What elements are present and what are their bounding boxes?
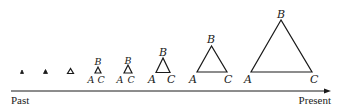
vertex-label-c: C (98, 74, 106, 85)
triangle-shape (156, 58, 170, 73)
triangle-shape (68, 69, 74, 74)
arrowhead-icon (324, 89, 331, 94)
vertex-label-c: C (167, 73, 176, 86)
triangle-shape (21, 70, 24, 74)
vertex-label-b: B (276, 8, 285, 21)
vertex-label-b: B (158, 46, 167, 59)
vertex-label-b: B (94, 56, 102, 67)
timeline-start-label: Past (11, 94, 29, 106)
triangle-stage-6: B A C (147, 46, 176, 86)
triangle-stage-8: B A C (243, 8, 319, 86)
timeline: Past Present (11, 89, 331, 107)
vertex-label-c: C (128, 74, 136, 85)
vertex-label-b: B (206, 33, 215, 46)
triangle-shape (197, 46, 227, 72)
vertex-label-a: A (188, 73, 197, 86)
triangle-growth-diagram: B A C B A C B A C B A C B A C Past Prese… (0, 0, 341, 111)
timeline-end-label: Present (299, 94, 331, 106)
vertex-label-b: B (124, 55, 132, 66)
triangle-stage-5: B A C (116, 55, 136, 85)
vertex-label-a: A (87, 74, 95, 85)
vertex-label-c: C (224, 73, 233, 86)
triangle-stage-3 (68, 69, 74, 74)
triangle-shape (44, 70, 48, 74)
triangle-shape (124, 65, 132, 73)
vertex-label-a: A (243, 73, 252, 86)
vertex-label-a: A (147, 73, 156, 86)
triangle-stage-1 (21, 70, 24, 74)
triangle-shape (95, 67, 101, 73)
triangle-stage-4: B A C (87, 56, 106, 85)
vertex-label-a: A (116, 74, 124, 85)
triangle-stage-7: B A C (188, 33, 233, 86)
vertex-label-c: C (310, 73, 319, 86)
triangle-shape (251, 20, 312, 72)
triangle-stage-2 (44, 70, 48, 74)
